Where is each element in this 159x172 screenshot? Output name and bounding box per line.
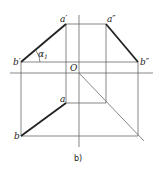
label-alpha: α1 [38,49,48,60]
segment-a-b [21,103,66,136]
segment-a-double-prime-b-double-prime [106,24,138,62]
miter-line-45deg [79,73,144,141]
label-a: a [60,94,65,104]
label-b-prime: b′ [13,57,21,67]
label-b: b [14,131,20,141]
label-origin: O [70,63,78,73]
label-a-prime: a′ [60,14,67,24]
projection-diagram: a′ a″ b′ b″ O a b α1 b) [0,0,159,172]
figure-caption: b) [74,154,82,163]
label-a-double-prime: a″ [107,14,116,24]
label-b-double-prime: b″ [140,57,150,67]
